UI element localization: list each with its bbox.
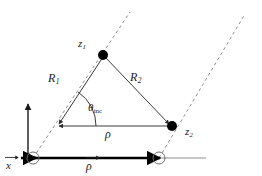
dashed-incidence-line-left — [33, 12, 130, 158]
label-R2: R2 — [130, 71, 141, 83]
label-R1: R1 — [48, 72, 59, 84]
dashed-incidence-line-right — [159, 14, 245, 158]
label-rho: ρ — [105, 128, 111, 140]
diagram-svg — [0, 0, 262, 176]
label-rho-vector: ρ — [86, 160, 92, 172]
node-z1-dot — [98, 50, 108, 60]
label-theta-inc: θinc — [88, 102, 102, 113]
label-z1: z1 — [78, 38, 86, 49]
label-z2: z2 — [185, 126, 193, 137]
segment-R2 — [105, 57, 169, 124]
figure-canvas: z1 z2 R1 R2 θinc ρ x ρ — [0, 0, 262, 176]
node-z2-dot — [167, 121, 177, 131]
label-x-vector: x — [6, 160, 11, 171]
